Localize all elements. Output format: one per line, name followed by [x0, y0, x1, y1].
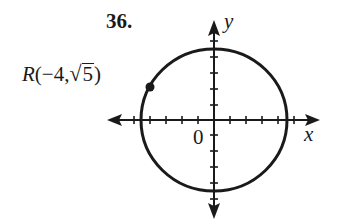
coordinate-plane-figure [0, 0, 337, 222]
origin-label: 0 [193, 127, 204, 148]
point-r-marker [146, 83, 155, 92]
y-axis-label: y [224, 11, 233, 32]
x-axis-label: x [304, 124, 313, 145]
